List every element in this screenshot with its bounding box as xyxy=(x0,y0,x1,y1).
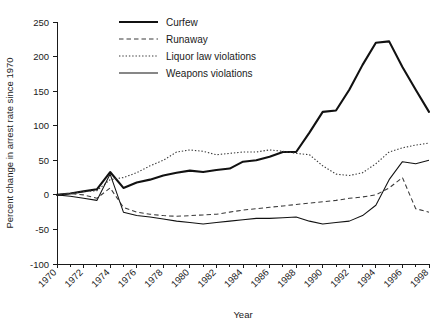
series-line-curfew xyxy=(57,41,429,195)
legend-label-curfew: Curfew xyxy=(166,17,198,28)
x-tick-label: 1990 xyxy=(301,267,324,290)
legend-label-liquor-law-violations: Liquor law violations xyxy=(166,51,256,62)
x-tick-label: 1980 xyxy=(169,267,192,290)
y-tick-label: 200 xyxy=(33,51,49,62)
y-tick-label: -100 xyxy=(30,259,49,270)
y-tick-label: 150 xyxy=(33,86,49,97)
x-tick-label: 1972 xyxy=(62,267,85,290)
x-tick-label: 1986 xyxy=(248,267,271,290)
x-tick-label: 1970 xyxy=(36,267,59,290)
x-tick-label: 1988 xyxy=(275,267,298,290)
x-tick-label: 1984 xyxy=(222,267,245,290)
x-tick-label: 1976 xyxy=(115,267,138,290)
x-tick-label: 1974 xyxy=(89,267,112,290)
x-tick-label: 1978 xyxy=(142,267,165,290)
legend-item-curfew: Curfew xyxy=(119,17,198,28)
y-tick-label: 100 xyxy=(33,120,49,131)
y-tick-label: 0 xyxy=(44,189,49,200)
y-axis-label: Percent change in arrest rate since 1970 xyxy=(4,57,15,228)
y-tick-label: 250 xyxy=(33,17,49,28)
series-line-runaway xyxy=(57,178,429,217)
legend-item-liquor-law-violations: Liquor law violations xyxy=(119,51,256,62)
x-tick-label: 1996 xyxy=(381,267,404,290)
x-tick-label: 1992 xyxy=(328,267,351,290)
x-tick-label: 1994 xyxy=(355,267,378,290)
x-tick-label: 1998 xyxy=(408,267,431,290)
legend-item-runaway: Runaway xyxy=(119,34,208,45)
line-chart: 250200150100500-50-100 19701972197419761… xyxy=(0,0,442,325)
y-tick-label: -50 xyxy=(35,224,49,235)
y-tick-label: 50 xyxy=(38,155,49,166)
x-axis-ticks: 1970197219741976197819801982198419861988… xyxy=(36,264,431,289)
chart-container: 250200150100500-50-100 19701972197419761… xyxy=(0,0,442,325)
legend-label-weapons-violations: Weapons violations xyxy=(166,68,253,79)
x-axis-label: Year xyxy=(233,309,252,320)
legend-item-weapons-violations: Weapons violations xyxy=(119,68,253,79)
y-axis-ticks: 250200150100500-50-100 xyxy=(30,17,57,270)
series-line-liquor-law-violations xyxy=(57,143,429,195)
legend-label-runaway: Runaway xyxy=(166,34,208,45)
x-tick-label: 1982 xyxy=(195,267,218,290)
chart-legend: Curfew Runaway Liquor law violations Wea… xyxy=(119,17,256,79)
